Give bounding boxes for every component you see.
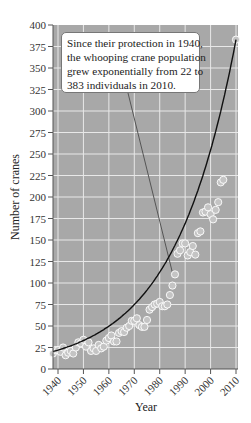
data-point <box>220 176 227 183</box>
data-point <box>133 315 140 322</box>
y-tick-label: 150 <box>30 234 47 246</box>
y-tick-label: 100 <box>30 277 47 289</box>
y-tick-label: 375 <box>30 41 47 53</box>
data-point <box>210 216 217 223</box>
data-point <box>141 323 148 330</box>
data-point <box>197 228 204 235</box>
x-tick-label: 1990 <box>167 374 191 398</box>
data-point <box>182 240 189 247</box>
data-point <box>164 301 171 308</box>
y-tick-label: 350 <box>30 62 47 74</box>
data-point <box>189 242 196 249</box>
data-point <box>171 271 178 278</box>
y-tick-label: 250 <box>30 148 47 160</box>
x-axis-title: Year <box>135 400 157 414</box>
annotation-line: the whooping crane population <box>67 50 194 64</box>
y-axis-title: Number of cranes <box>8 154 22 240</box>
y-tick-label: 325 <box>30 84 47 96</box>
y-tick-label: 75 <box>35 299 47 311</box>
x-tick-label: 2000 <box>192 374 216 398</box>
annotation-callout: Since their protection in 1940, the whoo… <box>61 32 200 93</box>
annotation-line: 383 individuals in 2010. <box>67 78 194 92</box>
y-tick-label: 125 <box>30 256 47 268</box>
x-tick-label: 1960 <box>90 374 114 398</box>
data-point <box>176 247 183 254</box>
x-tick-label: 1940 <box>39 374 63 398</box>
data-point <box>166 291 173 298</box>
data-point <box>113 338 120 345</box>
x-tick-label: 1950 <box>65 374 89 398</box>
data-point <box>204 204 211 211</box>
y-tick-label: 400 <box>30 19 47 31</box>
data-point <box>215 199 222 206</box>
x-tick-label: 2010 <box>217 374 241 398</box>
y-tick-label: 225 <box>30 170 47 182</box>
y-tick-label: 200 <box>30 191 47 203</box>
annotation-line: grew exponentially from 22 to <box>67 64 194 78</box>
annotation-line: Since their protection in 1940, <box>67 36 194 50</box>
data-point <box>212 206 219 213</box>
y-tick-label: 50 <box>35 320 47 332</box>
data-point <box>192 251 199 258</box>
x-axis: 19401950196019701980199020002010 <box>39 369 241 398</box>
x-tick-label: 1970 <box>116 374 140 398</box>
y-tick-label: 175 <box>30 213 47 225</box>
y-tick-label: 275 <box>30 127 47 139</box>
data-point <box>143 316 150 323</box>
y-tick-label: 300 <box>30 105 47 117</box>
y-tick-label: 25 <box>35 342 47 354</box>
data-point <box>169 282 176 289</box>
x-tick-label: 1980 <box>141 374 165 398</box>
y-tick-label: 0 <box>41 363 47 375</box>
y-axis: 0255075100125150175200225250275300325350… <box>30 19 54 375</box>
